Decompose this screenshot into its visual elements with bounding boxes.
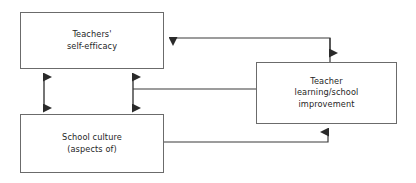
connector-teacher-learning-to-self-efficacy xyxy=(173,38,330,62)
connector-school-culture-to-teacher-learning xyxy=(164,132,328,142)
node-school-culture[interactable]: School culture (aspects of) xyxy=(20,114,164,173)
diagram-canvas: Teachers' self-efficacy School culture (… xyxy=(0,0,416,183)
node-label-self-efficacy: Teachers' self-efficacy xyxy=(63,29,121,52)
node-label-school-culture: School culture (aspects of) xyxy=(58,132,126,155)
node-label-teacher-learning: Teacher learning/school improvement xyxy=(291,76,363,111)
node-teachers-self-efficacy[interactable]: Teachers' self-efficacy xyxy=(20,12,164,69)
node-teacher-learning-school-improvement[interactable]: Teacher learning/school improvement xyxy=(256,62,397,124)
